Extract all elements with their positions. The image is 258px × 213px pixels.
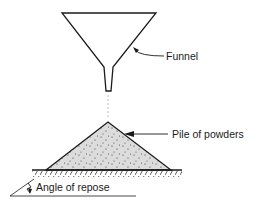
powder-pile: [46, 122, 171, 170]
funnel-leader: [133, 47, 164, 56]
angle-label: Angle of repose: [36, 182, 110, 193]
funnel: [62, 13, 156, 91]
pile-label: Pile of powders: [172, 129, 244, 140]
falling-powder: [108, 96, 109, 117]
funnel-label: Funnel: [166, 51, 198, 62]
ground: [32, 170, 182, 177]
pile-leader: [124, 131, 168, 137]
